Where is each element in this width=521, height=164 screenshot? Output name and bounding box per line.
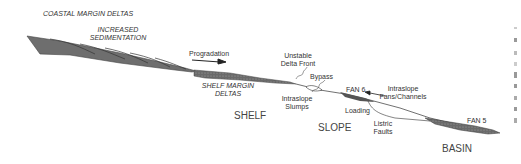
label-line: Delta Front xyxy=(273,60,323,68)
label-fan-5: FAN 5 xyxy=(467,117,486,125)
label-line: SHELF MARGIN xyxy=(198,82,258,90)
label-line: SEDIMENTATION xyxy=(88,34,148,42)
label-slope: SLOPE xyxy=(318,122,351,133)
title-coastal-margin-deltas: COASTAL MARGIN DELTAS xyxy=(43,10,133,18)
label-loading: Loading xyxy=(345,107,370,115)
fan-5 xyxy=(425,118,500,134)
label-line: Listric xyxy=(368,120,398,128)
label-line: Intraslope xyxy=(378,85,428,93)
fragment xyxy=(514,107,517,111)
label-basin: BASIN xyxy=(442,143,472,154)
label-listric-faults: Listric Faults xyxy=(368,120,398,136)
delta-cross-section-diagram: COASTAL MARGIN DELTAS INCREASED SEDIMENT… xyxy=(0,0,521,164)
label-fan-6: FAN 6 xyxy=(346,86,365,94)
label-line: Unstable xyxy=(273,52,323,60)
progradation-arrow xyxy=(192,59,226,64)
label-line: Slumps xyxy=(272,103,322,111)
label-line: Faults xyxy=(368,128,398,136)
cross-section-svg xyxy=(0,0,521,164)
fragment xyxy=(514,84,517,88)
label-shelf: SHELF xyxy=(234,110,266,121)
listric-fault xyxy=(368,101,430,121)
label-intraslope-fans-channels: Intraslope Fans/Channels xyxy=(378,85,428,101)
label-shelf-margin-deltas: SHELF MARGIN DELTAS xyxy=(198,82,258,98)
fragment xyxy=(514,96,517,100)
label-bypass: Bypass xyxy=(310,73,333,81)
label-line: Intraslope xyxy=(272,95,322,103)
label-line: INCREASED xyxy=(88,26,148,34)
fragment xyxy=(514,51,517,55)
delta-front-leader xyxy=(296,67,307,79)
label-line: DELTAS xyxy=(198,90,258,98)
label-intraslope-slumps: Intraslope Slumps xyxy=(272,95,322,111)
label-increased-sedimentation: INCREASED SEDIMENTATION xyxy=(88,26,148,42)
label-progradation: Progradation xyxy=(189,50,229,58)
fragment xyxy=(514,62,517,66)
label-unstable-delta-front: Unstable Delta Front xyxy=(273,52,323,68)
fragment xyxy=(514,72,517,78)
fragment xyxy=(514,27,517,29)
fragment xyxy=(514,118,517,123)
label-line: Fans/Channels xyxy=(378,93,428,101)
fragment xyxy=(514,38,517,42)
